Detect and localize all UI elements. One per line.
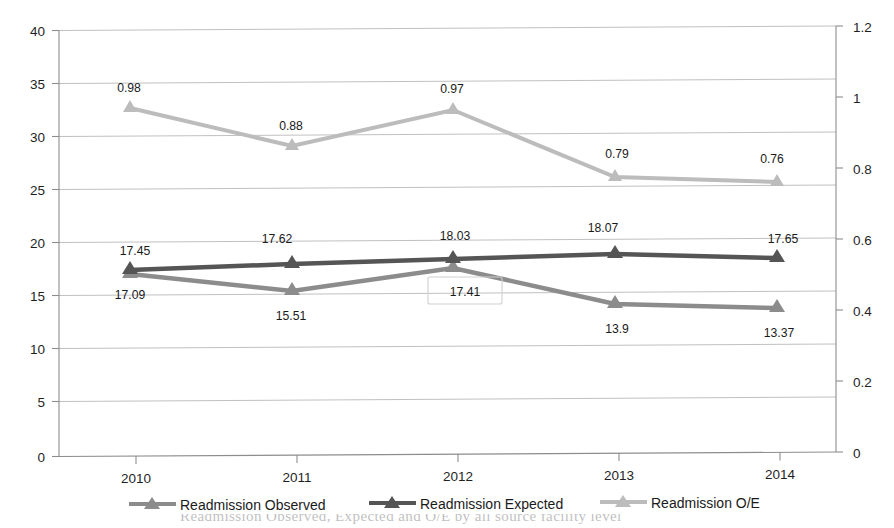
data-labels-expected: 17.45 17.62 18.03 18.07 17.65 [120, 221, 799, 258]
series-readmission-oe[interactable] [123, 100, 784, 186]
data-label-observed-2014: 13.37 [764, 326, 795, 340]
data-label-oe-2013: 0.79 [605, 147, 629, 161]
data-label-observed-2012[interactable]: 17.41 [450, 285, 481, 299]
chart-legend: Readmission Observed Readmission Expecte… [129, 495, 760, 513]
gridline-25 [59, 185, 836, 190]
legend-item-readmission-expected[interactable]: Readmission Expected [369, 496, 563, 512]
left-tick-label-0: 0 [37, 450, 45, 465]
caption-text: Readmission Observed, Expected and O/E b… [0, 514, 894, 525]
xtick-label-2011: 2011 [282, 470, 311, 485]
xtick-label-2012: 2012 [443, 469, 473, 484]
series-observed-marker-2014[interactable] [769, 299, 785, 312]
series-expected-marker-2014[interactable] [769, 249, 785, 262]
right-tick-label-0_8: 0.8 [853, 162, 872, 177]
data-label-expected-2012: 18.03 [440, 229, 471, 243]
page-caption-clipped: Readmission Observed, Expected and O/E b… [0, 514, 894, 528]
x-axis-tick-labels: 2010 2011 2012 2013 2014 [121, 467, 796, 486]
data-label-oe-2011: 0.88 [279, 119, 303, 133]
data-labels-observed: 17.09 15.51 17.41 13.9 13.37 [115, 277, 795, 340]
data-label-expected-2014: 17.65 [768, 232, 799, 246]
series-oe-marker-2010[interactable] [123, 100, 137, 112]
xtick-label-2010: 2010 [121, 471, 151, 486]
left-tick-label-30: 30 [30, 130, 45, 145]
left-tick-label-10: 10 [30, 342, 45, 357]
data-labels-oe: 0.98 0.88 0.97 0.79 0.76 [117, 81, 784, 166]
data-label-oe-2014: 0.76 [760, 152, 784, 166]
right-axis-tick-labels: 1.2 1 0.8 0.6 0.4 0.2 0 [853, 20, 872, 461]
readmission-trend-chart: 40 35 30 25 20 15 10 5 0 1.2 1 0.8 0.6 0… [0, 0, 894, 528]
series-expected-marker-2013[interactable] [607, 245, 623, 258]
gridline-15 [59, 291, 836, 296]
data-label-expected-2011: 17.62 [262, 232, 293, 246]
data-label-observed-2010: 17.09 [115, 288, 146, 302]
data-label-expected-2013: 18.07 [588, 221, 619, 235]
left-tick-label-15: 15 [30, 289, 45, 304]
gridline-5 [59, 397, 836, 402]
legend-item-readmission-observed[interactable]: Readmission Observed [129, 497, 326, 513]
gridline-30 [59, 132, 836, 137]
left-tick-label-20: 20 [30, 236, 45, 251]
gridline-10 [59, 344, 836, 349]
right-tick-label-0_2: 0.2 [853, 375, 872, 390]
series-oe-line[interactable] [130, 108, 777, 182]
right-tick-label-0_4: 0.4 [853, 304, 872, 319]
chart-canvas: 40 35 30 25 20 15 10 5 0 1.2 1 0.8 0.6 0… [0, 0, 894, 528]
left-tick-label-5: 5 [37, 395, 45, 410]
left-tick-label-40: 40 [30, 24, 45, 39]
left-tick-label-35: 35 [30, 77, 45, 92]
legend-item-readmission-oe[interactable]: Readmission O/E [600, 495, 760, 511]
right-tick-label-1_2: 1.2 [853, 20, 872, 35]
left-tick-label-25: 25 [30, 183, 45, 198]
left-axis-tick-labels: 40 35 30 25 20 15 10 5 0 [30, 24, 45, 465]
series-expected-marker-2010[interactable] [122, 261, 138, 274]
data-label-expected-2010: 17.45 [120, 244, 151, 258]
legend-label-readmission-oe: Readmission O/E [651, 495, 760, 511]
xtick-label-2013: 2013 [604, 468, 634, 483]
data-label-oe-2012: 0.97 [440, 82, 464, 96]
right-tick-label-0: 0 [853, 446, 861, 461]
data-label-observed-2011: 15.51 [276, 309, 307, 323]
data-label-oe-2010: 0.98 [117, 81, 141, 95]
series-expected-marker-2012[interactable] [445, 250, 461, 263]
series-expected-marker-2011[interactable] [284, 255, 300, 268]
right-tick-label-1: 1 [853, 91, 861, 106]
data-label-observed-2013: 13.9 [605, 322, 629, 336]
xtick-label-2014: 2014 [765, 467, 796, 482]
x-axis [59, 452, 836, 457]
legend-label-readmission-expected: Readmission Expected [420, 496, 563, 512]
series-oe-marker-2012[interactable] [446, 102, 460, 114]
legend-label-readmission-observed: Readmission Observed [180, 497, 326, 513]
right-tick-label-0_6: 0.6 [853, 233, 872, 248]
gridline-40 [59, 26, 836, 31]
